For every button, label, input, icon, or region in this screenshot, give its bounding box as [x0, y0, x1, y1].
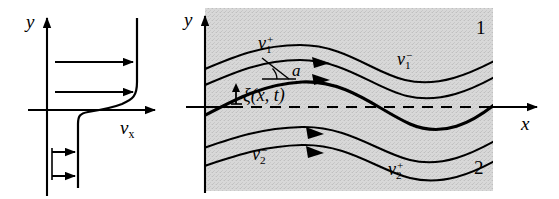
- v2-plus-base: v: [388, 159, 396, 179]
- right-x-axis-label: x: [521, 114, 529, 133]
- velocity-label-v2-minus: v2−: [252, 145, 267, 163]
- physics-figure: y vx y x 1 2 v1+ v1− v2− v2+ a ξ(x, t): [0, 0, 559, 199]
- v2-plus-sup: +: [397, 159, 403, 171]
- v1-plus-base: v: [258, 33, 266, 53]
- v1-plus-sup: +: [267, 33, 273, 45]
- displacement-label: ξ(x, t): [243, 86, 285, 104]
- right-y-axis-label: y: [184, 10, 192, 29]
- left-panel-graphics: [28, 18, 155, 196]
- v2-minus-sup: −: [261, 144, 267, 156]
- velocity-label-v2-plus: v2+: [388, 160, 403, 178]
- region-label-1: 1: [476, 18, 486, 37]
- v2-minus-base: v: [252, 144, 260, 164]
- v1-minus-sup: −: [406, 49, 412, 61]
- angle-label: a: [292, 62, 301, 79]
- velocity-label-v1-plus: v1+: [258, 34, 273, 52]
- region-label-2: 2: [474, 158, 484, 177]
- v1-minus-base: v: [397, 49, 405, 69]
- left-y-axis-label: y: [26, 12, 34, 31]
- velocity-label-v1-minus: v1−: [397, 50, 412, 68]
- left-x-axis-label: vx: [120, 118, 134, 137]
- velocity-profile-curve: [78, 18, 137, 188]
- left-x-axis-label-sub: x: [128, 128, 134, 141]
